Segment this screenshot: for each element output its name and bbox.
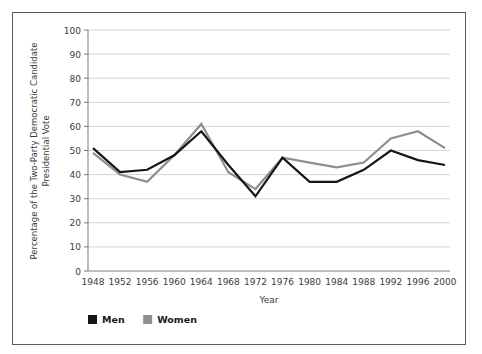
x-axis-tick-label: 1996 <box>406 277 429 287</box>
y-axis-tick-label: 40 <box>70 170 82 180</box>
x-axis-tick-labels: 1948195219561960196419681972197619801984… <box>82 277 457 287</box>
figure-frame: 0102030405060708090100 19481952195619601… <box>12 12 466 345</box>
series-lines <box>93 124 445 196</box>
legend-label: Women <box>157 314 197 325</box>
y-axis-title: Percentage of the Two-Party Democratic C… <box>29 43 51 260</box>
y-axis-tick-label: 90 <box>70 50 82 60</box>
y-axis-tick-label: 20 <box>70 218 82 228</box>
x-axis-tick-label: 1972 <box>244 277 267 287</box>
x-axis-tick-label: 1960 <box>163 277 186 287</box>
gridlines <box>88 30 450 247</box>
y-axis-tick-label: 80 <box>70 74 82 84</box>
legend-swatch <box>143 315 152 324</box>
y-axis-tick-label: 0 <box>75 267 81 277</box>
x-axis-tick-label: 1984 <box>325 277 348 287</box>
y-axis-title-line-1: Percentage of the Two-Party Democratic C… <box>29 43 39 260</box>
y-axis-tick-label: 100 <box>64 26 81 36</box>
x-axis-tick-label: 1964 <box>190 277 213 287</box>
y-axis-tick-label: 30 <box>70 194 82 204</box>
x-axis-tick-label: 1968 <box>217 277 240 287</box>
x-axis-tick-label: 1948 <box>82 277 105 287</box>
chart-area: 0102030405060708090100 19481952195619601… <box>13 13 467 346</box>
y-axis-tick-labels: 0102030405060708090100 <box>64 26 88 277</box>
y-axis-tick-label: 60 <box>70 122 82 132</box>
legend-label: Men <box>102 314 125 325</box>
x-axis-tick-label: 1988 <box>352 277 375 287</box>
x-axis-title: Year <box>258 295 278 305</box>
x-axis-tick-label: 1980 <box>298 277 321 287</box>
series-line-men <box>93 131 445 196</box>
legend-swatch <box>88 315 97 324</box>
x-axis-tick-label: 1956 <box>136 277 159 287</box>
series-line-women <box>93 124 445 189</box>
y-axis-title-line-2: Presidential Vote <box>41 115 51 186</box>
y-axis-tick-label: 50 <box>70 146 82 156</box>
chart-legend: MenWomen <box>88 314 197 325</box>
x-axis-tick-label: 1992 <box>379 277 402 287</box>
y-axis-tick-label: 10 <box>70 242 82 252</box>
x-axis-title-label: Year <box>258 295 278 305</box>
x-axis-tick-label: 1952 <box>109 277 132 287</box>
x-axis-tick-label: 2000 <box>434 277 457 287</box>
y-axis-tick-label: 70 <box>70 98 82 108</box>
line-chart-svg: 0102030405060708090100 19481952195619601… <box>13 13 467 346</box>
x-axis-tick-label: 1976 <box>271 277 294 287</box>
